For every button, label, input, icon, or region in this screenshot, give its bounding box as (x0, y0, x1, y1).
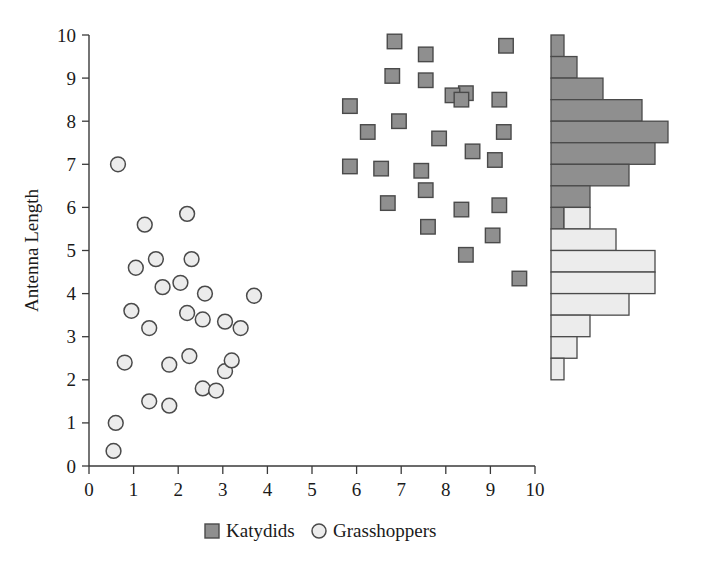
data-point-grasshopper (180, 306, 195, 321)
data-point-katydid (432, 131, 447, 146)
x-tick-label: 4 (263, 479, 273, 500)
data-point-grasshopper (128, 260, 143, 275)
data-point-grasshopper (142, 394, 157, 409)
y-tick-label: 8 (67, 111, 77, 132)
data-point-grasshopper (247, 288, 262, 303)
data-point-grasshopper (180, 206, 195, 221)
y-tick-label: 2 (67, 369, 77, 390)
x-tick-label: 10 (526, 479, 545, 500)
histogram-bar-grasshoppers (551, 272, 655, 294)
data-point-grasshopper (155, 280, 170, 295)
series-katydids (343, 34, 527, 286)
histogram-bar-katydids (551, 207, 564, 229)
histogram-bar-grasshoppers (551, 358, 564, 380)
y-tick-label: 9 (67, 68, 77, 89)
histogram-bar-grasshoppers (551, 294, 629, 316)
y-tick-label: 3 (67, 326, 77, 347)
data-points-layer (106, 34, 527, 458)
legend: KatydidsGrasshoppers (205, 520, 436, 541)
histogram-bar-katydids (551, 35, 564, 57)
data-point-grasshopper (108, 416, 123, 431)
histogram-bar-katydids (551, 164, 629, 186)
histogram-bar-grasshoppers (564, 207, 590, 229)
data-point-katydid (381, 196, 396, 211)
data-point-katydid (421, 220, 436, 235)
data-point-katydid (361, 125, 376, 140)
data-point-katydid (465, 144, 480, 159)
y-tick-label: 5 (67, 240, 77, 261)
histogram-bar-grasshoppers (551, 337, 577, 359)
data-point-katydid (418, 73, 433, 88)
data-point-grasshopper (117, 355, 132, 370)
x-tick-label: 3 (218, 479, 228, 500)
data-point-grasshopper (124, 303, 139, 318)
histogram-bar-katydids (551, 143, 655, 165)
data-point-grasshopper (195, 312, 210, 327)
data-point-grasshopper (149, 252, 164, 267)
y-tick-label: 6 (67, 197, 77, 218)
histogram-bar-katydids (551, 57, 577, 79)
histogram-bar-katydids (551, 100, 642, 122)
data-point-grasshopper (137, 217, 152, 232)
data-point-grasshopper (173, 275, 188, 290)
plot-canvas: 012345678910012345678910Antenna LengthKa… (0, 0, 703, 571)
series-grasshoppers (106, 157, 261, 458)
data-point-katydid (454, 92, 469, 107)
y-axis-title: Antenna Length (21, 189, 42, 312)
y-tick-label: 1 (67, 412, 77, 433)
x-tick-label: 2 (173, 479, 183, 500)
data-point-grasshopper (142, 321, 157, 336)
marginal-histogram (551, 35, 668, 380)
legend-swatch-grasshoppers (312, 524, 326, 538)
data-point-grasshopper (111, 157, 126, 172)
data-point-grasshopper (198, 286, 213, 301)
histogram-bar-grasshoppers (551, 229, 616, 251)
y-tick-label: 10 (57, 25, 76, 46)
data-point-grasshopper (224, 353, 239, 368)
y-tick-label: 4 (67, 283, 77, 304)
data-point-katydid (492, 92, 507, 107)
data-point-katydid (387, 34, 402, 49)
data-point-katydid (418, 47, 433, 62)
y-tick-label: 0 (67, 456, 77, 477)
data-point-katydid (343, 159, 358, 174)
data-point-katydid (488, 153, 503, 168)
histogram-bar-katydids (551, 78, 603, 100)
data-point-katydid (512, 271, 527, 286)
data-point-katydid (414, 164, 429, 179)
data-point-katydid (485, 228, 500, 243)
x-tick-label: 0 (84, 479, 94, 500)
data-point-grasshopper (195, 381, 210, 396)
data-point-katydid (459, 248, 474, 263)
x-tick-label: 9 (486, 479, 496, 500)
legend-swatch-katydids (205, 524, 219, 538)
histogram-bar-grasshoppers (551, 251, 655, 273)
y-tick-label: 7 (67, 154, 77, 175)
data-point-katydid (418, 183, 433, 198)
scatter-plot-figure: 012345678910012345678910Antenna LengthKa… (0, 0, 703, 571)
histogram-bar-grasshoppers (551, 315, 590, 337)
data-point-katydid (499, 39, 514, 54)
data-point-grasshopper (162, 398, 177, 413)
data-point-katydid (385, 69, 400, 84)
data-point-grasshopper (233, 321, 248, 336)
data-point-katydid (374, 161, 389, 176)
data-point-katydid (454, 202, 469, 217)
data-point-katydid (497, 125, 512, 140)
x-tick-label: 6 (352, 479, 362, 500)
legend-label-katydids: Katydids (226, 520, 295, 541)
x-tick-label: 1 (129, 479, 139, 500)
data-point-grasshopper (162, 357, 177, 372)
data-point-katydid (392, 114, 407, 129)
x-tick-label: 8 (441, 479, 451, 500)
data-point-grasshopper (209, 383, 224, 398)
histogram-bar-katydids (551, 121, 668, 143)
data-point-grasshopper (184, 252, 199, 267)
x-tick-label: 7 (396, 479, 406, 500)
data-point-grasshopper (218, 314, 233, 329)
legend-label-grasshoppers: Grasshoppers (333, 520, 436, 541)
data-point-katydid (492, 198, 507, 213)
data-point-grasshopper (182, 349, 197, 364)
data-point-katydid (343, 99, 358, 114)
x-tick-label: 5 (307, 479, 317, 500)
